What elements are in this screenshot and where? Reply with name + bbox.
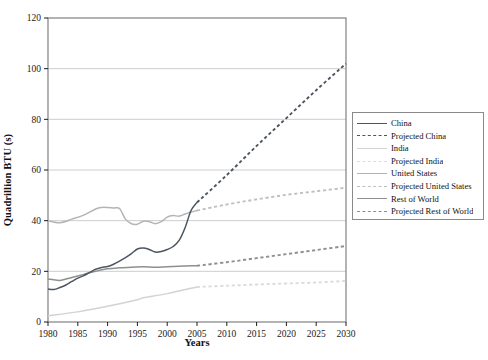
y-axis-tick-label: 100 — [27, 64, 42, 74]
y-axis-tick-label: 60 — [32, 165, 42, 175]
legend-item[interactable]: Projected India — [357, 155, 480, 168]
legend-item-label: Projected China — [391, 130, 446, 143]
legend-swatch-icon — [357, 131, 387, 141]
y-axis-label-wrap: Quadrillion BTU (s) — [2, 80, 22, 280]
series-line — [197, 281, 346, 287]
chart-container: 0204060801001201980198519901995200020052… — [0, 0, 488, 360]
y-axis-tick-label: 0 — [36, 317, 41, 327]
legend-item[interactable]: Projected United States — [357, 180, 480, 193]
y-axis-tick-label: 80 — [32, 115, 42, 125]
legend-item[interactable]: Rest of World — [357, 193, 480, 206]
legend-item-label: Rest of World — [391, 193, 439, 206]
series-line — [197, 246, 346, 266]
legend-swatch-icon — [357, 169, 387, 179]
legend-item-label: Projected Rest of World — [391, 205, 473, 218]
legend-item[interactable]: United States — [357, 167, 480, 180]
legend-swatch-icon — [357, 194, 387, 204]
x-axis-label: Years — [48, 337, 346, 348]
legend-swatch-icon — [357, 143, 387, 153]
legend-item[interactable]: China — [357, 117, 480, 130]
y-axis-tick-label: 120 — [27, 13, 42, 23]
legend-swatch-icon — [357, 118, 387, 128]
y-axis-label: Quadrillion BTU (s) — [2, 80, 13, 280]
legend-item-label: China — [391, 117, 412, 130]
y-axis-tick-label: 20 — [32, 267, 42, 277]
legend-swatch-icon — [357, 206, 387, 216]
legend-item-label: India — [391, 142, 409, 155]
chart-legend: ChinaProjected ChinaIndiaProjected India… — [352, 112, 484, 220]
legend-item[interactable]: Projected China — [357, 130, 480, 143]
legend-item-label: United States — [391, 167, 437, 180]
legend-item-label: Projected India — [391, 155, 443, 168]
series-line — [48, 287, 197, 316]
series-line — [48, 266, 197, 281]
series-line — [197, 188, 346, 211]
legend-swatch-icon — [357, 181, 387, 191]
legend-swatch-icon — [357, 156, 387, 166]
legend-item[interactable]: Projected Rest of World — [357, 205, 480, 218]
legend-item-label: Projected United States — [391, 180, 472, 193]
series-line — [48, 207, 197, 224]
series-line — [197, 64, 346, 203]
y-axis-tick-label: 40 — [32, 216, 42, 226]
legend-item[interactable]: India — [357, 142, 480, 155]
